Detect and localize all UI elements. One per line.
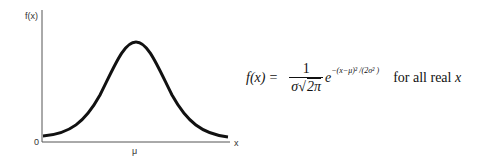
- formula-condition: for all real x: [393, 70, 461, 86]
- formula-lhs: f(x): [246, 70, 265, 86]
- x-axis-label: x: [234, 138, 239, 148]
- formula-denominator: σ√2π: [289, 77, 323, 96]
- y-axis-label: f(x): [25, 11, 38, 21]
- condition-var: x: [455, 70, 461, 85]
- formula-numerator: 1: [301, 61, 312, 77]
- formula-fraction: 1 σ√2π: [289, 61, 323, 96]
- bell-curve: [43, 42, 228, 137]
- origin-label: 0: [34, 137, 39, 147]
- sqrt-symbol: √: [298, 79, 306, 94]
- mu-tick-label: μ: [132, 146, 137, 156]
- normal-pdf-formula: f(x) = 1 σ√2π e −(x−μ)² /(2σ² ) for all …: [246, 58, 461, 98]
- condition-text: for all real: [393, 70, 451, 85]
- formula-exponent: −(x−μ)² /(2σ² ): [331, 66, 379, 75]
- radicand: 2π: [307, 78, 321, 94]
- formula-equals: =: [269, 70, 277, 86]
